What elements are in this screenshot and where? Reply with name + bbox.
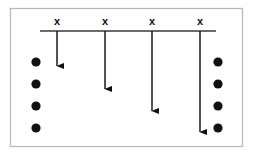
dot — [31, 101, 40, 110]
arrow-label-2: x — [102, 15, 109, 27]
dot — [213, 79, 222, 88]
arrow-label-4: x — [197, 15, 204, 27]
dot — [31, 57, 40, 66]
dot — [31, 123, 40, 132]
diagram-canvas: x x x x — [0, 0, 254, 157]
dot — [213, 57, 222, 66]
figure-root: x x x x — [0, 0, 254, 157]
dot — [31, 79, 40, 88]
figure-frame — [11, 9, 243, 147]
arrow-label-1: x — [54, 15, 61, 27]
dot — [213, 123, 222, 132]
arrow-label-3: x — [149, 15, 156, 27]
dot — [213, 101, 222, 110]
